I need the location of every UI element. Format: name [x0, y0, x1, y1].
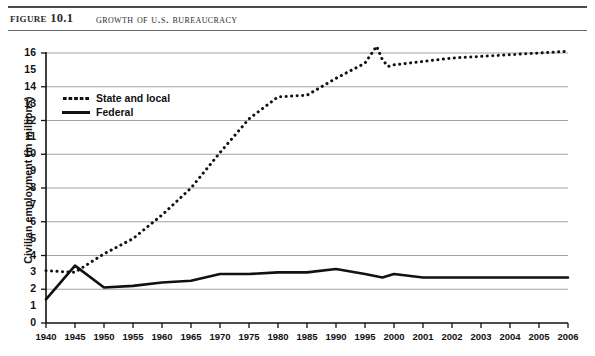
y-tick-label: 11	[18, 130, 36, 142]
series-paths	[46, 46, 568, 299]
legend-label: Federal	[96, 106, 133, 118]
dotted-line-icon	[61, 93, 91, 103]
y-tick-label: 13	[18, 97, 36, 109]
y-tick-label: 14	[18, 80, 36, 92]
series-line-state-and-local	[46, 46, 568, 272]
series-line-federal	[46, 266, 568, 300]
x-tick-label: 2006	[551, 331, 585, 342]
header-rule-bottom	[8, 30, 587, 31]
chart-legend: State and localFederal	[57, 89, 174, 121]
page-title: Growth of U.S. Bureaucracy	[96, 12, 237, 27]
y-tick-label: 8	[18, 181, 36, 193]
figure-number: Figure 10.1	[10, 11, 73, 26]
y-tick-label: 2	[18, 282, 36, 294]
y-tick-label: 10	[18, 147, 36, 159]
solid-line-icon	[61, 107, 91, 117]
legend-item: Federal	[61, 105, 170, 119]
legend-item: State and local	[61, 91, 170, 105]
legend-label: State and local	[96, 92, 170, 104]
y-tick-label: 7	[18, 198, 36, 210]
y-tick-label: 4	[18, 249, 36, 261]
chart-area: Civilian employment (in millions) 012345…	[0, 34, 595, 356]
y-tick-label: 5	[18, 232, 36, 244]
y-tick-label: 15	[18, 63, 36, 75]
y-tick-label: 3	[18, 265, 36, 277]
y-tick-label: 0	[18, 316, 36, 328]
figure-header: Figure 10.1 Growth of U.S. Bureaucracy	[8, 6, 587, 32]
y-tick-label: 12	[18, 114, 36, 126]
line-chart	[0, 34, 595, 356]
y-tick-label: 6	[18, 215, 36, 227]
header-rule-top	[8, 6, 587, 8]
y-tick-label: 16	[18, 46, 36, 58]
y-tick-label: 1	[18, 299, 36, 311]
y-tick-label: 9	[18, 164, 36, 176]
